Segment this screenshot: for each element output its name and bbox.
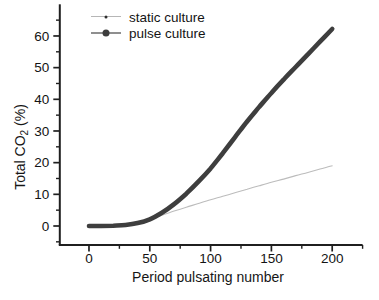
x-tick-label: 0 bbox=[85, 251, 93, 266]
y-axis-title: Total CO2 (%) bbox=[12, 104, 31, 190]
y-tick-label: 40 bbox=[34, 92, 49, 107]
x-tick-label: 50 bbox=[142, 251, 157, 266]
legend-item-pulse-culture: pulse culture bbox=[90, 25, 206, 41]
x-tick-label: 200 bbox=[321, 251, 344, 266]
legend-label-pulse-culture: pulse culture bbox=[129, 26, 206, 41]
y-tick-label: 30 bbox=[34, 124, 49, 139]
co2-line-chart: 0501001502000102030405060 static culture… bbox=[0, 0, 379, 300]
pulse-culture-marker-icon bbox=[90, 26, 122, 40]
plot-svg: 0501001502000102030405060 bbox=[0, 0, 379, 300]
y-tick-label: 60 bbox=[34, 29, 49, 44]
y-axis-title-subscript: 2 bbox=[19, 130, 30, 136]
y-tick-label: 10 bbox=[34, 187, 49, 202]
series-line-pulse-culture bbox=[89, 29, 332, 226]
x-tick-label: 100 bbox=[199, 251, 222, 266]
series-line-static-culture bbox=[89, 166, 332, 226]
y-tick-label: 0 bbox=[42, 219, 50, 234]
y-tick-label: 20 bbox=[34, 155, 49, 170]
y-axis-title-units: (%) bbox=[12, 104, 28, 130]
y-tick-label: 50 bbox=[34, 60, 49, 75]
legend-label-static-culture: static culture bbox=[129, 10, 205, 25]
static-culture-marker-icon bbox=[90, 10, 122, 24]
x-tick-label: 150 bbox=[260, 251, 283, 266]
y-axis-title-text: Total CO bbox=[12, 135, 28, 189]
legend: static culture pulse culture bbox=[90, 9, 206, 41]
x-axis-title: Period pulsating number bbox=[60, 269, 356, 285]
legend-item-static-culture: static culture bbox=[90, 9, 206, 25]
